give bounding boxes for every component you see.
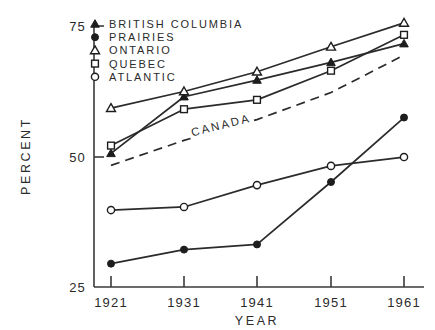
legend: BRITISH COLUMBIAPRAIRIESONTARIOQUEBECATL… bbox=[91, 18, 244, 83]
data-point bbox=[400, 153, 407, 160]
legend-marker-icon bbox=[91, 73, 98, 80]
data-point bbox=[401, 114, 408, 121]
y-tick-label-25: 25 bbox=[69, 280, 86, 295]
data-point bbox=[254, 241, 261, 248]
x-tick-label-1931: 1931 bbox=[167, 295, 201, 310]
legend-marker-icon bbox=[92, 60, 99, 67]
data-point bbox=[328, 179, 335, 186]
legend-label: ATLANTIC bbox=[109, 71, 177, 83]
data-point bbox=[181, 106, 188, 113]
legend-item-british-columbia: BRITISH COLUMBIA bbox=[91, 18, 244, 30]
legend-item-atlantic: ATLANTIC bbox=[91, 71, 176, 83]
legend-item-ontario: ONTARIO bbox=[91, 44, 172, 56]
y-tick-label-75: 75 bbox=[69, 19, 86, 34]
data-point bbox=[328, 67, 335, 74]
legend-label: PRAIRIES bbox=[109, 31, 176, 43]
data-point bbox=[181, 246, 188, 253]
x-axis-title: YEAR bbox=[235, 314, 279, 328]
legend-label: BRITISH COLUMBIA bbox=[109, 18, 243, 30]
data-point bbox=[107, 206, 114, 213]
data-point bbox=[108, 260, 115, 267]
legend-label: ONTARIO bbox=[109, 44, 172, 56]
x-tick-label-1921: 1921 bbox=[94, 295, 128, 310]
data-point bbox=[327, 162, 334, 169]
legend-marker-icon bbox=[91, 20, 100, 28]
data-point bbox=[400, 39, 409, 47]
data-point bbox=[400, 18, 409, 26]
y-tick-label-50: 50 bbox=[69, 150, 86, 165]
legend-item-prairies: PRAIRIES bbox=[92, 31, 176, 43]
data-point bbox=[253, 182, 260, 189]
data-point bbox=[254, 96, 261, 103]
canada-series-label: CANADA bbox=[190, 112, 252, 138]
legend-item-quebec: QUEBEC bbox=[92, 58, 167, 70]
series-atlantic bbox=[107, 153, 407, 213]
line-chart: 75 50 25 1921 1931 1941 1951 1961 PERCEN… bbox=[0, 0, 435, 330]
legend-label: QUEBEC bbox=[109, 58, 167, 70]
x-tick-label-1941: 1941 bbox=[240, 295, 274, 310]
x-tick-label-1951: 1951 bbox=[314, 295, 348, 310]
legend-marker-icon bbox=[91, 46, 100, 54]
y-axis-title: PERCENT bbox=[19, 117, 33, 195]
data-point bbox=[180, 203, 187, 210]
legend-marker-icon bbox=[92, 34, 99, 41]
data-point bbox=[401, 31, 408, 38]
chart-canvas: 75 50 25 1921 1931 1941 1951 1961 PERCEN… bbox=[0, 0, 435, 330]
series-prairies bbox=[108, 114, 408, 267]
x-tick-label-1961: 1961 bbox=[387, 295, 421, 310]
data-point bbox=[108, 142, 115, 149]
